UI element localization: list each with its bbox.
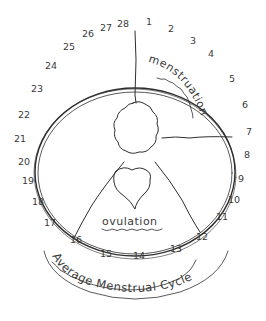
center-blob-shape	[114, 102, 158, 154]
day-16: 16	[70, 234, 82, 245]
ovulation-underline	[102, 229, 162, 231]
day-11: 11	[216, 211, 228, 222]
day-22: 22	[18, 109, 30, 120]
day-14: 14	[133, 250, 145, 261]
day-2: 2	[168, 23, 174, 34]
day-27: 27	[100, 22, 112, 33]
day-26: 26	[82, 28, 94, 39]
day-6: 6	[242, 99, 248, 110]
day-12: 12	[196, 231, 208, 242]
day-5: 5	[229, 73, 235, 84]
day-3: 3	[190, 35, 196, 46]
day-24: 24	[45, 60, 57, 71]
day-17: 17	[44, 217, 56, 228]
day-10: 10	[228, 194, 240, 205]
heart-shape	[114, 168, 151, 209]
day-9: 9	[238, 173, 244, 184]
ovulation-label: ovulation	[102, 215, 158, 228]
day-7: 7	[246, 126, 252, 137]
day-23: 23	[31, 83, 43, 94]
day-20: 20	[18, 156, 30, 167]
day-1: 1	[146, 16, 152, 27]
day-8: 8	[244, 149, 250, 160]
day-18: 18	[32, 196, 44, 207]
day-4: 4	[208, 48, 214, 59]
menstrual-cycle-diagram: 1 2 3 4 5 6 7 8 9 10 11 12 13 14 15 16 1…	[0, 0, 266, 321]
day-13: 13	[170, 243, 182, 254]
day-15: 15	[100, 248, 112, 259]
menstruation-label: menstruation	[147, 52, 211, 117]
diagram-title: Average Menstrual Cycle	[49, 250, 194, 295]
day-25: 25	[63, 41, 75, 52]
day-21: 21	[14, 133, 26, 144]
day-28: 28	[117, 18, 129, 29]
day-19: 19	[22, 175, 34, 186]
